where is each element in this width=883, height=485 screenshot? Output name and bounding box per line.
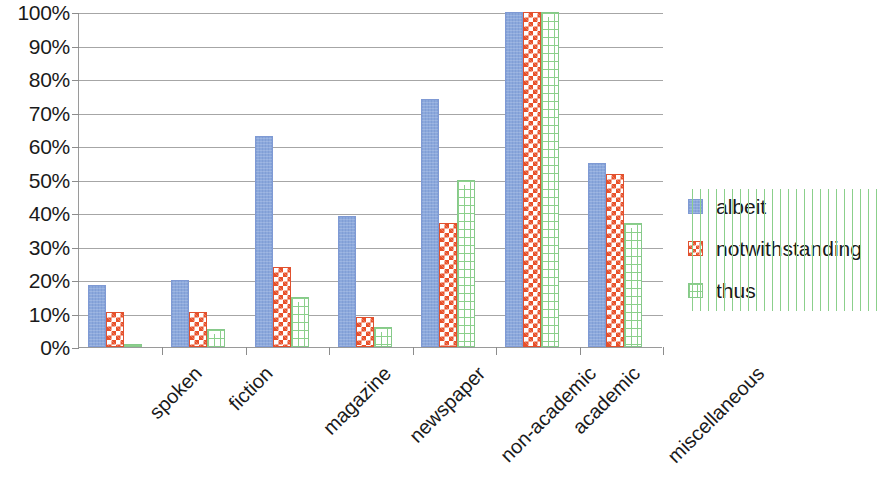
y-axis-tick-label: 70% <box>0 103 70 124</box>
y-axis-tick-label: 20% <box>0 270 70 291</box>
y-axis-tick-label: 90% <box>0 36 70 57</box>
bar-group <box>505 13 559 347</box>
x-axis-tick-label: spoken <box>145 362 206 423</box>
y-axis-tick-label: 0% <box>0 337 70 358</box>
bar-group <box>421 13 475 347</box>
bar-albeit-miscellaneous[interactable] <box>588 163 606 347</box>
plot-area <box>78 13 662 348</box>
y-axis-tick-label: 50% <box>0 170 70 191</box>
bar-thus-newspaper[interactable] <box>374 327 392 347</box>
y-axis-tick-label: 80% <box>0 69 70 90</box>
bar-thus-non-academic[interactable] <box>457 180 475 348</box>
bar-thus-magazine[interactable] <box>291 297 309 347</box>
bar-group <box>338 13 392 347</box>
legend-swatch-icon <box>688 199 703 214</box>
y-axis-tick-mark <box>72 147 79 148</box>
y-axis-tick-label: 40% <box>0 203 70 224</box>
bar-group <box>255 13 309 347</box>
bar-notwithstanding-non-academic[interactable] <box>439 223 457 347</box>
bar-albeit-newspaper[interactable] <box>338 216 356 347</box>
bar-albeit-magazine[interactable] <box>255 136 273 347</box>
y-axis-tick-mark <box>72 47 79 48</box>
bar-notwithstanding-academic[interactable] <box>523 12 541 347</box>
y-axis-tick-mark <box>72 13 79 14</box>
y-axis: 100%90%80%70%60%50%40%30%20%10%0% <box>0 0 70 485</box>
bar-notwithstanding-fiction[interactable] <box>189 312 207 347</box>
legend-label: albeit <box>716 196 766 217</box>
x-axis-tick-label: fiction <box>224 362 277 415</box>
bar-group <box>588 13 642 347</box>
bar-albeit-fiction[interactable] <box>171 280 189 347</box>
bar-notwithstanding-miscellaneous[interactable] <box>606 174 624 347</box>
x-axis-tick-label: newspaper <box>405 362 490 447</box>
x-axis-tick-mark <box>663 347 664 355</box>
x-axis-tick-label: magazine <box>318 362 395 439</box>
y-axis-tick-label: 100% <box>0 2 70 23</box>
bar-albeit-spoken[interactable] <box>88 285 106 347</box>
x-axis: spokenfictionmagazinenewspapernon-academ… <box>78 348 662 485</box>
bar-group <box>88 13 142 347</box>
bar-notwithstanding-spoken[interactable] <box>106 312 124 347</box>
y-axis-tick-label: 10% <box>0 304 70 325</box>
y-axis-tick-label: 60% <box>0 136 70 157</box>
bar-thus-miscellaneous[interactable] <box>624 223 642 347</box>
bar-notwithstanding-newspaper[interactable] <box>356 317 374 347</box>
bar-albeit-non-academic[interactable] <box>421 99 439 347</box>
legend-label: thus <box>716 280 756 301</box>
y-axis-tick-mark <box>72 114 79 115</box>
y-axis-tick-mark <box>72 80 79 81</box>
y-axis-tick-mark <box>72 214 79 215</box>
x-axis-tick-label: miscellaneous <box>663 362 768 467</box>
bar-group <box>171 13 225 347</box>
bar-albeit-academic[interactable] <box>505 12 523 347</box>
legend-item-thus[interactable]: thus <box>688 269 883 311</box>
bar-thus-fiction[interactable] <box>207 329 225 347</box>
legend-swatch-icon <box>688 283 703 298</box>
bar-thus-spoken[interactable] <box>124 344 142 347</box>
bar-notwithstanding-magazine[interactable] <box>273 267 291 347</box>
y-axis-tick-mark <box>72 181 79 182</box>
y-axis-tick-label: 30% <box>0 237 70 258</box>
bar-thus-academic[interactable] <box>541 12 559 347</box>
legend-item-notwithstanding[interactable]: notwithstanding <box>688 227 883 269</box>
legend-swatch-icon <box>688 241 703 256</box>
legend-item-albeit[interactable]: albeit <box>688 185 883 227</box>
y-axis-tick-mark <box>72 248 79 249</box>
bar-chart: 100%90%80%70%60%50%40%30%20%10%0% spoken… <box>0 0 883 485</box>
legend: albeitnotwithstandingthus <box>688 185 883 311</box>
y-axis-tick-mark <box>72 281 79 282</box>
y-axis-tick-mark <box>72 315 79 316</box>
legend-label: notwithstanding <box>716 238 862 259</box>
